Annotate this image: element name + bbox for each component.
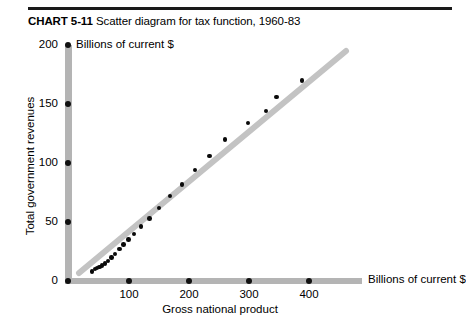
y-tick-dot-150 bbox=[65, 101, 71, 107]
x-tick-dot-100 bbox=[126, 278, 132, 284]
data-point bbox=[113, 252, 118, 257]
x-tick-label-300: 300 bbox=[229, 288, 269, 301]
data-point bbox=[223, 137, 228, 142]
x-tick-dot-200 bbox=[186, 278, 192, 284]
data-point bbox=[147, 216, 152, 221]
data-point bbox=[180, 182, 185, 187]
data-point bbox=[139, 224, 144, 229]
x-axis-title: Gross national product bbox=[130, 303, 310, 315]
data-point bbox=[274, 95, 279, 100]
data-point bbox=[168, 194, 173, 199]
x-tick-label-200: 200 bbox=[169, 288, 209, 301]
data-point bbox=[207, 154, 212, 159]
data-point bbox=[264, 109, 269, 114]
x-axis-units-label: Billions of current $ bbox=[368, 273, 466, 285]
y-tick-dot-100 bbox=[65, 160, 71, 166]
x-axis-line bbox=[65, 278, 362, 284]
data-point bbox=[300, 78, 305, 83]
y-axis-title: Total government revenues bbox=[24, 66, 36, 266]
x-tick-dot-300 bbox=[246, 278, 252, 284]
data-point bbox=[126, 237, 131, 242]
y-tick-dot-50 bbox=[65, 219, 71, 225]
y-axis-units-label: Billions of current $ bbox=[76, 38, 174, 50]
y-tick-label-0: 0 bbox=[28, 274, 58, 287]
y-tick-dot-0 bbox=[65, 278, 71, 284]
data-point bbox=[157, 206, 162, 211]
data-point bbox=[117, 247, 122, 252]
y-tick-dot-200 bbox=[65, 42, 71, 48]
data-point bbox=[121, 242, 126, 247]
data-point bbox=[193, 168, 198, 173]
data-point bbox=[246, 121, 251, 126]
x-tick-label-400: 400 bbox=[289, 288, 329, 301]
y-tick-label-200: 200 bbox=[28, 38, 58, 51]
x-tick-label-100: 100 bbox=[109, 288, 149, 301]
x-tick-dot-400 bbox=[306, 278, 312, 284]
data-point bbox=[132, 232, 137, 237]
